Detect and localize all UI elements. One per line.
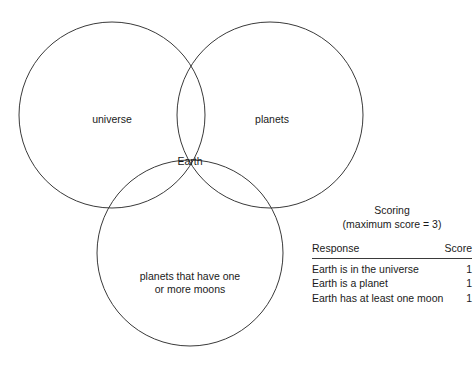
scoring-heading: Scoring (maximum score = 3)	[312, 203, 472, 231]
scoring-panel: Scoring (maximum score = 3) Response Sco…	[312, 203, 472, 305]
venn-label-universe: universe	[62, 113, 162, 126]
venn-label-moons: planets that have one or more moons	[110, 270, 270, 296]
venn-label-earth-intersection: Earth	[150, 155, 230, 168]
table-header-row: Response Score	[312, 241, 472, 258]
page-root: universe planets Earth planets that have…	[0, 0, 476, 367]
venn-circles-graphic	[0, 0, 370, 367]
cell-response: Earth has at least one moon	[312, 291, 444, 306]
scoring-table-head: Response Score	[312, 241, 472, 258]
venn-label-moons-line1: planets that have one	[140, 270, 240, 282]
scoring-table-body: Earth is in the universe 1 Earth is a pl…	[312, 258, 472, 305]
venn-label-planets: planets	[222, 113, 322, 126]
cell-response: Earth is in the universe	[312, 258, 444, 276]
scoring-maximum-score-note: (maximum score = 3)	[312, 217, 472, 231]
scoring-table: Response Score Earth is in the universe …	[312, 241, 472, 305]
table-row: Earth is a planet 1	[312, 276, 472, 291]
cell-score: 1	[444, 258, 472, 276]
venn-label-moons-line2: or more moons	[155, 283, 226, 295]
cell-score: 1	[444, 276, 472, 291]
column-header-response: Response	[312, 241, 444, 258]
column-header-score: Score	[444, 241, 472, 258]
table-row: Earth has at least one moon 1	[312, 291, 472, 306]
cell-response: Earth is a planet	[312, 276, 444, 291]
table-row: Earth is in the universe 1	[312, 258, 472, 276]
venn-circle-moons	[97, 160, 283, 346]
venn-diagram: universe planets Earth planets that have…	[0, 0, 370, 367]
cell-score: 1	[444, 291, 472, 306]
scoring-title: Scoring	[312, 203, 472, 217]
